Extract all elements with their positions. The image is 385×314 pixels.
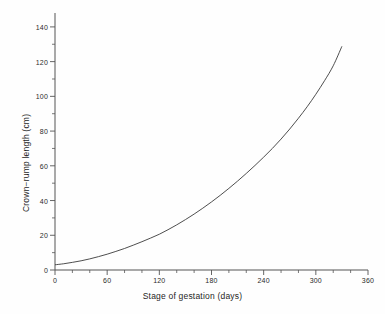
x-tick-label: 60 — [103, 277, 111, 284]
axis-lines — [55, 13, 368, 270]
chart-plot-area — [0, 0, 385, 314]
x-tick-label: 120 — [153, 277, 165, 284]
data-series-line — [55, 46, 342, 264]
y-axis-title: Crown−rump length (cm) — [21, 114, 31, 212]
y-tick-label: 100 — [20, 93, 48, 100]
y-tick-label: 120 — [20, 58, 48, 65]
x-tick-label: 240 — [258, 277, 270, 284]
x-tick-label: 360 — [362, 277, 374, 284]
x-tick-label: 300 — [310, 277, 322, 284]
y-axis-ticks — [50, 27, 55, 270]
chart-container: 060120180240300360 020406080100120140 St… — [0, 0, 385, 314]
y-tick-label: 140 — [20, 23, 48, 30]
x-axis-ticks — [55, 270, 368, 275]
y-tick-label: 20 — [20, 232, 48, 239]
x-tick-label: 180 — [205, 277, 217, 284]
y-tick-label: 0 — [20, 267, 48, 274]
x-tick-label: 0 — [53, 277, 57, 284]
x-axis-title: Stage of gestation (days) — [0, 291, 385, 301]
